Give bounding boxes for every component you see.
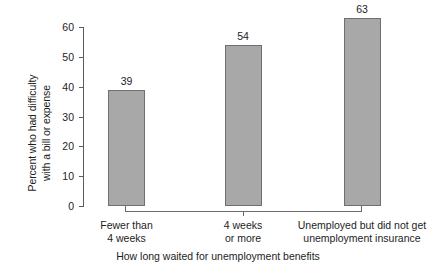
bar-value-label: 54 [213,31,274,42]
y-axis-tick-50: 50 [0,52,84,62]
bar-value-label: 63 [332,4,393,15]
y-axis-tick-label: 50 [50,52,74,62]
y-axis-tick-60: 60 [0,22,84,32]
x-axis-category-label: Fewer than4 weeks [77,219,177,245]
y-axis-tick-label: 40 [50,82,74,92]
y-axis-tick-label: 30 [50,112,74,122]
category-bracket-cap-right [361,206,362,212]
y-axis-title-line-2: with a bill or expense [39,85,53,181]
x-axis-category-label-line: unemployment insurance [272,232,436,245]
bar[interactable] [108,90,145,206]
y-axis-tick-30: 30 [0,112,84,122]
x-axis-category-label: Unemployed but did not getunemployment i… [272,219,436,245]
y-axis-tick-20: 20 [0,141,84,151]
x-axis-title: How long waited for unemployment benefit… [0,250,436,262]
y-axis-tick-mark [79,206,84,207]
bar[interactable] [225,45,262,206]
category-bracket-tick-middle [243,211,244,216]
y-axis-tick-label: 0 [50,201,74,211]
x-axis-category-label-line: Fewer than [77,219,177,232]
x-axis-category-label-line: 4 weeks [77,232,177,245]
y-axis-tick-label: 60 [50,22,74,32]
plot-area: 395463 [84,27,414,206]
bar[interactable] [344,18,381,206]
bar-value-label: 39 [96,76,157,87]
y-axis-tick-10: 10 [0,171,84,181]
y-axis-tick-40: 40 [0,82,84,92]
bar-chart: Percent who had difficulty with a bill o… [0,0,436,270]
y-axis-tick-label: 10 [50,171,74,181]
category-bracket-cap-left [125,206,126,212]
x-axis-category-label-line: Unemployed but did not get [272,219,436,232]
y-axis-tick-label: 20 [50,141,74,151]
y-axis-tick-0: 0 [0,201,84,211]
